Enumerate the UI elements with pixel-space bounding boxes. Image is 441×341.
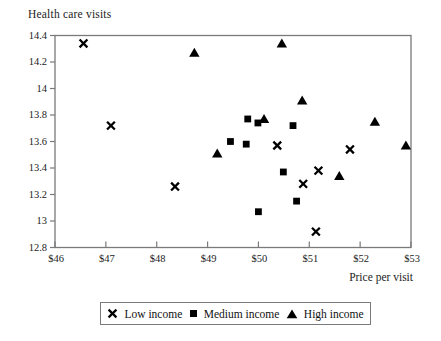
scatter-plot: 12.81313.213.413.613.81414.214.4$46$47$4…	[0, 0, 441, 341]
y-tick-label: 12.8	[29, 242, 47, 253]
x-axis-title: Price per visit	[349, 271, 413, 283]
x-tick-label: $49	[201, 253, 217, 264]
x-tick-label: $48	[150, 253, 166, 264]
legend-label-high-income: High income	[304, 308, 364, 320]
x-tick-label: $47	[99, 253, 115, 264]
y-tick-label: 13	[37, 215, 48, 226]
point-low-income	[346, 146, 354, 154]
scatter-chart-figure: Health care visits 12.81313.213.413.613.…	[0, 0, 441, 341]
y-tick-label: 14	[37, 83, 48, 94]
point-high-income	[277, 38, 287, 47]
point-high-income	[370, 117, 380, 126]
point-high-income	[189, 48, 199, 57]
point-medium-income	[227, 138, 234, 145]
x-tick-label: $53	[404, 253, 420, 264]
point-medium-income	[255, 208, 262, 215]
point-high-income	[401, 140, 411, 149]
series-low-income	[80, 40, 354, 236]
point-medium-income	[243, 141, 250, 148]
y-axis: 12.81313.213.413.613.81414.214.4	[29, 30, 55, 253]
legend-item-medium-income: Medium income	[189, 308, 280, 320]
point-low-income	[80, 40, 88, 48]
point-low-income	[171, 183, 179, 191]
square-marker-icon	[189, 309, 198, 318]
y-tick-label: 13.8	[29, 109, 47, 120]
legend-label-low-income: Low income	[124, 308, 182, 320]
x-tick-label: $52	[353, 253, 369, 264]
point-low-income	[107, 122, 115, 130]
chart-legend: Low income Medium income High income	[100, 302, 371, 325]
point-medium-income	[244, 116, 251, 123]
x-axis: $46$47$48$49$50$51$52$53	[48, 242, 420, 265]
point-high-income	[259, 114, 269, 123]
point-low-income	[315, 167, 323, 175]
point-low-income	[312, 228, 320, 236]
x-tick-label: $46	[48, 253, 64, 264]
point-high-income	[212, 148, 222, 157]
legend-item-high-income: High income	[286, 308, 364, 320]
point-low-income	[273, 142, 281, 150]
y-tick-label: 13.2	[29, 189, 47, 200]
triangle-marker-icon	[286, 309, 298, 319]
series-medium-income	[227, 116, 300, 216]
y-tick-label: 13.4	[29, 162, 48, 173]
point-low-income	[299, 180, 307, 188]
y-tick-label: 13.6	[29, 136, 47, 147]
point-high-income	[334, 171, 344, 180]
point-medium-income	[290, 122, 297, 129]
point-medium-income	[293, 198, 300, 205]
y-tick-label: 14.4	[29, 30, 48, 41]
point-high-income	[297, 95, 307, 104]
x-tick-label: $51	[302, 253, 318, 264]
y-tick-label: 14.2	[29, 56, 47, 67]
series-high-income	[189, 38, 411, 180]
legend-item-low-income: Low income	[107, 308, 182, 320]
legend-label-medium-income: Medium income	[204, 308, 280, 320]
point-medium-income	[280, 169, 287, 176]
x-marker-icon	[107, 308, 118, 319]
x-tick-label: $50	[252, 253, 268, 264]
